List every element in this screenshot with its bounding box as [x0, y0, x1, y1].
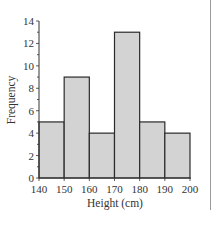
x-tick-label: 180 — [131, 183, 148, 195]
x-tick-label: 200 — [182, 183, 199, 195]
page-edge-divider — [210, 0, 211, 210]
y-tick-label: 12 — [23, 37, 34, 49]
histogram-bar — [140, 122, 165, 178]
histogram-bar — [115, 32, 140, 178]
y-tick-label: 10 — [23, 60, 35, 72]
histogram-bars — [39, 32, 190, 178]
x-tick-label: 170 — [106, 183, 123, 195]
x-tick-label: 160 — [81, 183, 98, 195]
histogram-bar — [39, 122, 64, 178]
y-axis-label: Frequency — [5, 75, 18, 124]
histogram-bar — [64, 77, 89, 178]
y-tick-label: 6 — [29, 105, 35, 117]
y-tick-label: 4 — [29, 127, 35, 139]
x-tick-label: 190 — [157, 183, 174, 195]
y-tick-label: 2 — [29, 150, 35, 162]
histogram-bar — [89, 133, 114, 178]
histogram-chart: 02468101214 140150160170180190200 Freque… — [0, 0, 213, 227]
x-axis-label: Height (cm) — [87, 197, 143, 210]
x-tick-label: 140 — [31, 183, 48, 195]
y-tick-label: 8 — [29, 82, 35, 94]
y-tick-label: 14 — [23, 15, 35, 27]
y-axis: 02468101214 — [23, 15, 39, 184]
histogram-bar — [165, 133, 190, 178]
x-axis: 140150160170180190200 — [31, 178, 199, 195]
x-tick-label: 150 — [56, 183, 73, 195]
